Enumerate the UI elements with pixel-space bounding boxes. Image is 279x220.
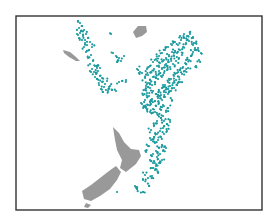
earthquake-point [171, 87, 173, 89]
earthquake-point [167, 110, 169, 112]
earthquake-point [183, 47, 185, 49]
earthquake-point [99, 80, 101, 82]
earthquake-point [157, 101, 159, 103]
earthquake-point [195, 41, 197, 43]
earthquake-point [96, 78, 98, 80]
earthquake-point [169, 68, 171, 70]
earthquake-point [154, 132, 156, 134]
earthquake-point [159, 135, 161, 137]
earthquake-point [190, 49, 192, 51]
earthquake-point [159, 50, 161, 52]
earthquake-point [158, 70, 160, 72]
earthquake-point [143, 101, 145, 103]
earthquake-point [169, 66, 171, 68]
earthquake-point [77, 21, 79, 23]
earthquake-point [111, 89, 113, 91]
earthquake-point [142, 191, 144, 193]
earthquake-point [185, 63, 187, 65]
earthquake-point [149, 137, 151, 139]
earthquake-point [155, 71, 157, 73]
earthquake-point [190, 60, 192, 62]
earthquake-point [157, 158, 159, 160]
earthquake-point [81, 25, 83, 27]
earthquake-point [146, 144, 148, 146]
earthquake-point [183, 33, 185, 35]
earthquake-point [96, 67, 98, 69]
earthquake-point [89, 63, 91, 65]
earthquake-point [92, 59, 94, 61]
earthquake-point [81, 39, 83, 41]
earthquake-point [180, 39, 182, 41]
earthquake-point [144, 180, 146, 182]
earthquake-point [187, 60, 189, 62]
earthquake-point [149, 103, 151, 105]
earthquake-point [107, 92, 109, 94]
earthquake-point [153, 122, 155, 124]
earthquake-point [182, 52, 184, 54]
earthquake-point [105, 89, 107, 91]
earthquake-point [106, 78, 108, 80]
earthquake-point [90, 71, 92, 73]
earthquake-point [152, 153, 154, 155]
earthquake-point [141, 72, 143, 74]
earthquake-point [177, 62, 179, 64]
earthquake-point [173, 72, 175, 74]
earthquake-point [95, 72, 97, 74]
earthquake-point [170, 97, 172, 99]
earthquake-point [145, 81, 147, 83]
earthquake-point [118, 81, 120, 83]
earthquake-point [169, 104, 171, 106]
earthquake-point [156, 60, 158, 62]
earthquake-point [110, 83, 112, 85]
earthquake-point [171, 84, 173, 86]
earthquake-point [156, 120, 158, 122]
earthquake-point [140, 192, 142, 194]
earthquake-point [164, 64, 166, 66]
earthquake-point [169, 90, 171, 92]
earthquake-point [158, 74, 160, 76]
earthquake-point [103, 86, 105, 88]
earthquake-point [99, 74, 101, 76]
earthquake-point [146, 104, 148, 106]
earthquake-point [144, 76, 146, 78]
earthquake-point [163, 96, 165, 98]
earthquake-point [150, 129, 152, 131]
earthquake-point [147, 86, 149, 88]
earthquake-point [108, 88, 110, 90]
earthquake-point [116, 61, 118, 63]
earthquake-point [147, 177, 149, 179]
earthquake-point [163, 70, 165, 72]
earthquake-point [159, 130, 161, 132]
earthquake-point [192, 51, 194, 53]
earthquake-point [102, 78, 104, 80]
earthquake-point [167, 107, 169, 109]
earthquake-point [182, 43, 184, 45]
earthquake-point [149, 72, 151, 74]
earthquake-point [163, 59, 165, 61]
earthquake-point [93, 64, 95, 66]
earthquake-point [165, 110, 167, 112]
earthquake-point [197, 47, 199, 49]
earthquake-point [158, 147, 160, 149]
earthquake-point [146, 92, 148, 94]
earthquake-point [152, 167, 154, 169]
earthquake-point [142, 178, 144, 180]
earthquake-point [166, 53, 168, 55]
earthquake-point [161, 119, 163, 121]
earthquake-point [87, 64, 89, 66]
earthquake-point [157, 171, 159, 173]
earthquake-point [86, 44, 88, 46]
earthquake-point [148, 185, 150, 187]
earthquake-point [157, 154, 159, 156]
earthquake-point [168, 55, 170, 57]
earthquake-point [171, 55, 173, 57]
earthquake-point [94, 76, 96, 78]
earthquake-point [175, 89, 177, 91]
earthquake-point [157, 139, 159, 141]
earthquake-point [165, 58, 167, 60]
earthquake-point [186, 57, 188, 59]
earthquake-point [176, 43, 178, 45]
earthquake-point [169, 121, 171, 123]
earthquake-point [160, 94, 162, 96]
earthquake-point [146, 72, 148, 74]
